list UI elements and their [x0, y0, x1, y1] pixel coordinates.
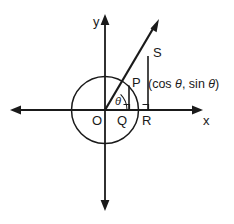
coord-cos-text: cos [152, 77, 171, 91]
point-label-o: O [92, 114, 102, 127]
y-axis-label: y [93, 15, 100, 28]
theta-arc [121, 94, 127, 110]
point-label-p: P [132, 76, 141, 89]
point-label-r: R [142, 114, 151, 127]
point-label-q: Q [117, 114, 127, 127]
coord-close-paren: ) [215, 77, 219, 91]
coordinate-annotation: (cos θ, sin θ) [148, 78, 219, 91]
trigonometry-figure: y x O Q R P S θ (cos θ, sin θ) [0, 0, 234, 224]
angle-label-theta: θ [115, 96, 121, 107]
coord-theta-1: θ [175, 77, 182, 91]
x-axis-label: x [203, 114, 210, 127]
coord-sin-text: sin [189, 77, 205, 91]
figure-canvas [0, 0, 234, 224]
terminal-ray [105, 19, 159, 110]
point-label-s: S [153, 46, 162, 59]
